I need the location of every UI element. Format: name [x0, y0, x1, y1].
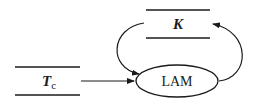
data-flow-diagram: Tc K LAM [0, 0, 258, 105]
k-label: K [172, 16, 184, 32]
arrow-k-to-lam [117, 23, 144, 74]
process-lam: LAM [136, 65, 218, 97]
data-store-tc: Tc [15, 67, 80, 95]
tc-label: Tc [42, 73, 56, 91]
diagram-canvas: Tc K LAM [0, 0, 258, 105]
arrow-lam-to-k [213, 24, 242, 81]
lam-label: LAM [161, 74, 193, 89]
data-store-k: K [146, 10, 210, 38]
